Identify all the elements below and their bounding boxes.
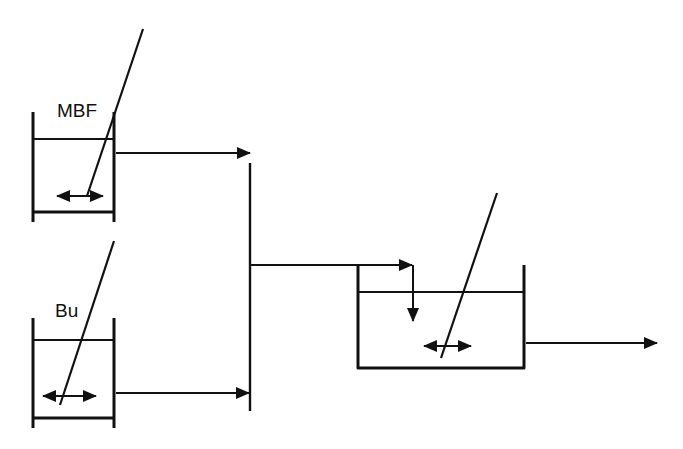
mbf-tank: [33, 112, 114, 222]
bu-label: Bu: [55, 301, 78, 320]
reactor-walls: [358, 265, 524, 368]
reactor-vessel: [358, 265, 524, 368]
mbf-label: MBF: [57, 101, 97, 120]
reactor-stirrer-icon: [424, 193, 497, 358]
bu-stirrer-icon: [43, 241, 114, 405]
process-diagram: MBF Bu: [0, 0, 683, 449]
diagram-svg: [0, 0, 683, 449]
bu-tank: [33, 318, 114, 428]
